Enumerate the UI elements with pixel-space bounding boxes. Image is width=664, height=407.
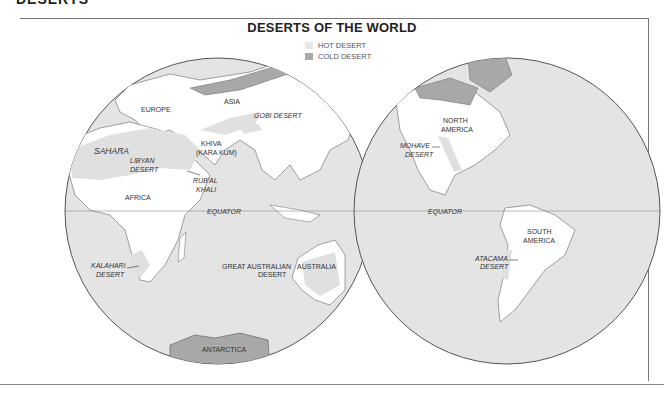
label-equator-right: EQUATOR (428, 208, 462, 216)
label-south-america-1: SOUTH (527, 228, 552, 235)
hot-desert-swatch (305, 42, 313, 49)
label-north-america-2: AMERICA (441, 126, 473, 133)
legend-item-cold-desert: COLD DESERT (305, 51, 371, 62)
legend-label: HOT DESERT (318, 41, 366, 50)
label-asia: ASIA (224, 98, 240, 105)
label-libyan-1: LIBYAN (130, 157, 155, 164)
label-kalahari-1: KALAHARI (91, 262, 126, 269)
label-north-america-1: NORTH (443, 117, 468, 124)
western-hemisphere (354, 56, 660, 364)
label-khiva-2: (KARA KUM) (196, 149, 237, 157)
alaska-cold-desert (385, 62, 408, 88)
label-australia: AUSTRALIA (297, 263, 336, 270)
label-rubal-1: RUB'AL (193, 177, 218, 184)
label-libyan-2: DESERT (130, 166, 159, 173)
label-great-aus-2: DESERT (258, 271, 287, 278)
label-sahara: SAHARA (94, 146, 129, 156)
map-legend: HOT DESERT COLD DESERT (305, 40, 371, 62)
label-equator-left: EQUATOR (207, 208, 241, 216)
label-atacama-1: ATACAMA (474, 255, 508, 262)
label-mohave-2: DESERT (405, 151, 434, 158)
label-europe: EUROPE (141, 106, 171, 113)
label-khiva-1: KHIVA (201, 140, 222, 147)
label-atacama-2: DESERT (480, 263, 509, 270)
label-rubal-2: KHALI (196, 186, 216, 193)
label-gobi: GOBI DESERT (254, 112, 302, 119)
cold-desert-swatch (305, 53, 313, 60)
label-mohave-1: MOHAVE (400, 142, 430, 149)
legend-label: COLD DESERT (318, 52, 371, 61)
legend-item-hot-desert: HOT DESERT (305, 40, 371, 51)
label-great-aus-1: GREAT AUSTRALIAN (222, 263, 291, 270)
label-antarctica: ANTARCTICA (202, 346, 247, 353)
label-africa: AFRICA (125, 194, 151, 201)
label-south-america-2: AMERICA (523, 237, 555, 244)
label-kalahari-2: DESERT (96, 271, 125, 278)
map-title: DESERTS OF THE WORLD (0, 20, 664, 35)
